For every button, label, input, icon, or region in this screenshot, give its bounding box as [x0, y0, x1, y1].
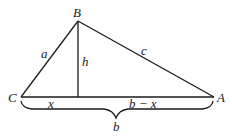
side-label-a: a: [41, 46, 48, 61]
triangle-diagram: B C A a c h x b − x b: [0, 0, 232, 138]
vertex-label-c: C: [8, 90, 17, 105]
altitude-label-h: h: [82, 54, 89, 69]
base-label-b: b: [113, 119, 120, 134]
segment-label-b-minus-x: b − x: [129, 96, 157, 111]
segment-label-x: x: [47, 96, 54, 111]
side-label-c: c: [141, 43, 147, 58]
side-a: [21, 21, 78, 97]
vertex-label-b: B: [73, 5, 81, 20]
vertex-label-a: A: [216, 90, 225, 105]
side-c: [78, 21, 214, 97]
